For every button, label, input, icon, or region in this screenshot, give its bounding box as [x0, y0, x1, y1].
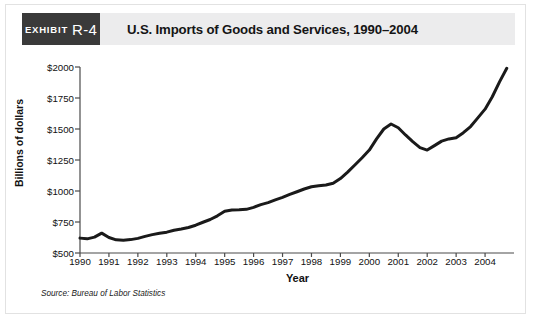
y-tick-label: $1000	[30, 186, 74, 197]
x-axis-label: Year	[80, 272, 515, 284]
y-tick-label: $750	[30, 217, 74, 228]
exhibit-figure: EXHIBIT R-4 U.S. Imports of Goods and Se…	[0, 0, 533, 321]
y-tick-label: $2000	[30, 62, 74, 73]
chart-tick-marks	[75, 67, 485, 257]
source-note: Source: Bureau of Labor Statistics	[41, 289, 165, 298]
chart-plot-area: Billions of dollars Year $2000$1750$1500…	[0, 0, 533, 321]
y-axis-tick-labels: $2000$1750$1500$1250$1000$750$500	[28, 0, 74, 321]
chart-axes	[80, 67, 514, 253]
y-axis-label: Billions of dollars	[13, 83, 25, 203]
imports-line-series	[80, 68, 507, 240]
y-tick-label: $1750	[30, 93, 74, 104]
y-tick-label: $1500	[30, 124, 74, 135]
y-tick-label: $1250	[30, 155, 74, 166]
x-tick-label: 2004	[465, 256, 505, 267]
